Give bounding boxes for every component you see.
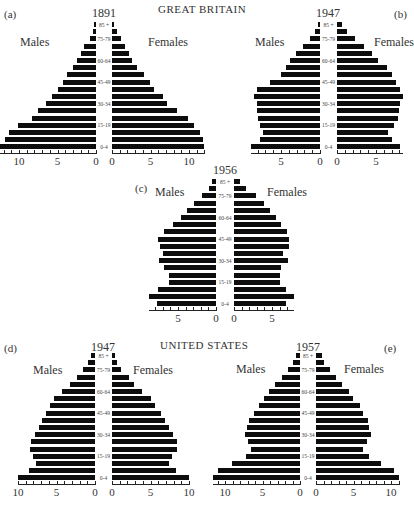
age-label: 45-49 [97,410,111,416]
age-label: 30-34 [301,432,315,438]
axis-tick [272,307,273,311]
male-bar [293,360,301,365]
axis-tick [72,481,73,485]
axis-tick [143,481,144,485]
female-bar [112,447,177,452]
axis-tick [331,481,332,485]
females-label: Females [344,362,384,377]
females-label: Females [374,35,414,50]
title-great-britain: GREAT BRITAIN [158,3,246,15]
female-bar [337,65,387,70]
female-bar [234,287,286,292]
female-bar [337,58,378,63]
axis-tick [27,150,28,154]
male-bar [32,116,96,121]
male-bar [290,58,320,63]
panel-label: (a) [4,8,16,20]
male-tick-label: 5 [260,486,266,498]
axis-tick [242,307,243,311]
female-tick-label: 5 [148,155,154,167]
female-tick-label: 5 [351,486,357,498]
female-tick-label: 5 [269,312,275,324]
female-bar [112,439,177,444]
age-label: 60-64 [218,215,232,221]
axis-tick [208,307,209,311]
title-united-states: UNITED STATES [160,339,248,351]
axis-tick [166,150,167,154]
male-tick-label: 0 [92,486,98,498]
axis-tick [278,481,279,485]
male-bar [275,382,300,387]
female-bar [112,382,134,387]
axis-tick [158,150,159,154]
female-bar [112,367,121,372]
axis-tick [49,481,50,485]
female-bar [112,123,194,128]
axis-tick [120,150,121,154]
male-bar [169,273,216,278]
male-bar [254,411,301,416]
axis-tick [64,481,65,485]
male-tick-label: 10 [220,486,231,498]
male-bar [73,65,96,70]
female-bar [112,403,155,408]
male-bar [46,101,96,106]
age-label: 45-49 [97,79,111,85]
male-bar [194,201,216,206]
male-bar [77,58,96,63]
male-bar [254,94,320,99]
female-bar [316,411,363,416]
age-label: 85 + [98,353,109,359]
female-bar [337,36,355,41]
axis-tick [297,150,298,154]
age-label: 60-64 [97,58,111,64]
axis-tick [369,481,370,485]
male-bar [50,403,95,408]
age-label: 30-34 [322,101,336,107]
female-bar [316,425,369,430]
female-x-axis [316,484,399,485]
age-label: 45-49 [322,79,336,85]
age-label: 75-79 [218,193,232,199]
female-bar [112,108,177,113]
male-tick-label: 10 [13,486,24,498]
female-bar [316,389,349,394]
female-bar [234,208,270,213]
male-bar [163,251,216,256]
axis-tick [234,307,235,311]
axis-tick [324,481,325,485]
male-x-axis [251,153,320,154]
axis-tick [50,150,51,154]
male-bar [249,418,300,423]
female-bar [234,301,286,306]
female-bar [337,94,403,99]
male-bar [46,411,95,416]
male-bar [160,244,216,249]
axis-tick [346,481,347,485]
axis-tick [163,307,164,311]
female-bar [112,411,161,416]
male-x-axis [0,153,96,154]
male-bar [269,389,301,394]
axis-tick [174,150,175,154]
panel-label: (c) [135,182,147,194]
male-bar [263,130,320,135]
age-label: 85 + [99,22,110,28]
female-tick-label: 5 [148,486,154,498]
age-label: 30-34 [97,101,111,107]
axis-tick [218,481,219,485]
axis-tick [337,150,338,154]
female-tick-label: 0 [313,486,319,498]
axis-tick [87,481,88,485]
male-bar [288,367,300,372]
male-bar [58,87,97,92]
female-tick-label: 10 [184,486,195,498]
axis-tick [384,481,385,485]
male-bar [181,215,216,220]
male-bar [303,44,320,49]
panel-year: 1947 [316,6,340,21]
male-bar [246,454,300,459]
axis-tick [270,481,271,485]
axis-tick [293,481,294,485]
male-tick-label: 5 [175,312,181,324]
